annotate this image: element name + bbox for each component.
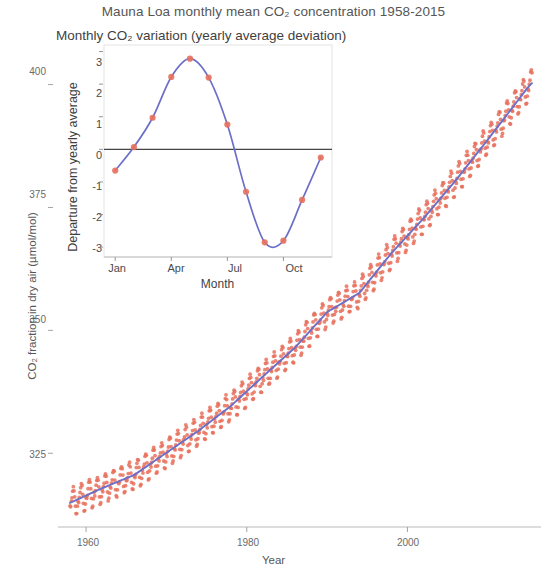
main-y-axis-ticks bbox=[48, 85, 53, 454]
chart-canvas: Mauna Loa monthly mean CO₂ concentration… bbox=[0, 0, 547, 575]
chart-plot-area bbox=[0, 0, 547, 575]
inset-curve-line bbox=[115, 59, 321, 248]
main-trend-line bbox=[70, 83, 532, 503]
main-data-points bbox=[68, 68, 534, 516]
inset-frame-border bbox=[104, 45, 332, 257]
inset-data-points bbox=[112, 56, 324, 246]
inset-y-axis-ticks bbox=[99, 52, 103, 248]
inset-x-axis-ticks bbox=[115, 257, 283, 261]
main-x-axis-ticks bbox=[86, 527, 407, 532]
